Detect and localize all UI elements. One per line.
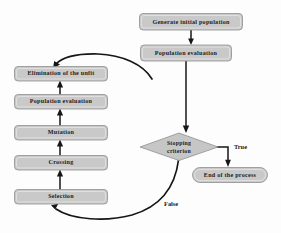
arrowhead-down-icon [183, 126, 189, 133]
node-selection[interactable]: Selection [15, 190, 108, 205]
edge-stopping-true-to-end [216, 147, 231, 167]
edge-label-false: False [164, 200, 178, 207]
edge-evaluation-to-stopping [183, 61, 189, 133]
node-population-evaluation-left[interactable]: Population evaluation [15, 95, 108, 110]
node-elimination-of-the-unfit[interactable]: Elimination of the unfit [15, 67, 108, 82]
node-label-mutation: Mutation [48, 129, 75, 135]
arrowhead-down-icon [225, 160, 231, 167]
arrowhead-down-icon [188, 39, 194, 45]
node-label-end-of-the-process: End of the process [204, 172, 257, 178]
arrowhead-up-icon [57, 81, 63, 88]
edge-crossing-to-mutation [57, 140, 63, 157]
flowchart-canvas: Generate initial population Population e… [0, 0, 281, 233]
node-label-elimination-of-the-unfit: Elimination of the unfit [27, 70, 94, 76]
node-label-population-evaluation-left: Population evaluation [30, 98, 93, 104]
node-crossing[interactable]: Crossing [15, 156, 108, 171]
flowchart-diagram: Generate initial population Population e… [0, 0, 281, 233]
node-label-stopping-criterion-line2: criterion [167, 148, 191, 154]
node-generate-initial-population[interactable]: Generate initial population [140, 14, 243, 31]
node-label-population-evaluation-top: Population evaluation [155, 50, 218, 56]
arrowhead-up-icon [57, 109, 63, 116]
node-stopping-criterion[interactable]: Stopping criterion [140, 133, 218, 161]
edge-mutation-to-population-eval [57, 109, 63, 127]
arrowhead-up-icon [57, 140, 63, 147]
node-mutation[interactable]: Mutation [15, 126, 108, 141]
edge-selection-to-crossing [57, 170, 63, 191]
node-label-crossing: Crossing [49, 159, 74, 165]
node-end-of-the-process[interactable]: End of the process [193, 168, 268, 183]
node-population-evaluation-top[interactable]: Population evaluation [141, 45, 232, 61]
arrowhead-up-icon [57, 170, 63, 177]
node-label-selection: Selection [48, 193, 74, 199]
edge-population-eval-to-elimination [57, 81, 63, 96]
node-label-generate-initial-population: Generate initial population [152, 19, 230, 25]
edge-generate-to-evaluation [188, 30, 194, 45]
node-label-stopping-criterion-line1: Stopping [167, 140, 191, 146]
edge-label-true: True [234, 143, 247, 150]
